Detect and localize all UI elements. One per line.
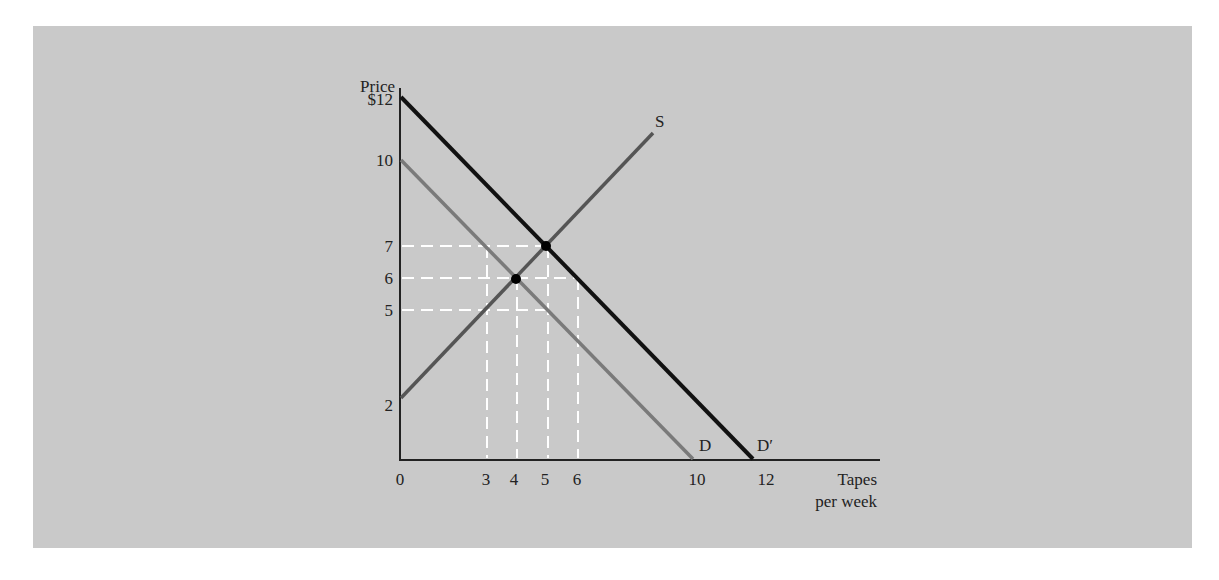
y-tick-10: 10 — [376, 151, 393, 170]
demand-curve-dprime — [401, 97, 753, 459]
supply-curve-s — [401, 133, 653, 398]
curve-label-s: S — [655, 112, 664, 131]
x-tick-0: 0 — [396, 470, 405, 489]
y-tick-5: 5 — [385, 301, 394, 320]
x-tick-3: 3 — [482, 470, 491, 489]
x-tick-6: 6 — [573, 470, 582, 489]
x-axis-title-line1: Tapes — [838, 470, 877, 489]
equilibrium-point-new — [541, 241, 551, 251]
equilibrium-point-original — [511, 274, 521, 284]
x-tick-5: 5 — [541, 470, 550, 489]
y-tick-2: 2 — [385, 396, 394, 415]
curve-label-d: D — [699, 436, 711, 455]
x-axis-title-line2: per week — [815, 492, 877, 511]
x-tick-12: 12 — [758, 470, 775, 489]
y-tick-12: $12 — [368, 90, 394, 109]
reference-lines — [402, 246, 578, 458]
x-tick-4: 4 — [510, 470, 519, 489]
curve-label-dprime: D′ — [757, 436, 773, 455]
x-tick-10: 10 — [689, 470, 706, 489]
supply-demand-chart: Price $12 10 7 6 5 2 0 3 4 5 6 10 12 Tap… — [0, 0, 1219, 580]
y-tick-7: 7 — [385, 237, 394, 256]
y-tick-6: 6 — [385, 269, 394, 288]
